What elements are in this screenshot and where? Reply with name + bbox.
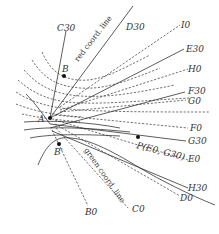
label-P: P(E0, G30) — [135, 140, 187, 162]
point-A — [48, 116, 52, 120]
label-C0: C0 — [132, 204, 145, 214]
label-H30: H30 — [187, 183, 208, 193]
label-G30: G30 — [188, 136, 207, 146]
label-H0: H0 — [187, 64, 202, 74]
label-G0: G0 — [188, 96, 201, 106]
label-A: A — [37, 114, 45, 124]
label-F30: F30 — [187, 86, 206, 96]
coordinate-diagram: B A B' P(E0, G30) red coord. line green … — [0, 0, 219, 234]
label-E30: E30 — [185, 44, 204, 54]
line-F30 — [50, 92, 185, 128]
label-D0: D0 — [179, 193, 193, 203]
label-D30: D30 — [125, 22, 145, 32]
line-H0 — [60, 69, 188, 110]
label-C30: C30 — [57, 23, 76, 33]
label-B: B — [61, 64, 69, 74]
line-H30 — [52, 131, 188, 188]
label-B0: B0 — [84, 207, 98, 217]
green-coord-line-label: green coord. line — [82, 146, 127, 205]
label-B-prime: B' — [53, 147, 63, 157]
point-B-prime — [57, 142, 61, 146]
red-coord-line-label: red coord. line — [72, 13, 114, 63]
line-B0 — [52, 130, 88, 206]
label-F0: F0 — [189, 123, 202, 133]
point-P — [136, 135, 140, 139]
label-E0: E0 — [187, 154, 201, 164]
line-E30 — [50, 49, 184, 118]
label-I0: I0 — [180, 20, 191, 30]
point-B — [62, 74, 66, 78]
